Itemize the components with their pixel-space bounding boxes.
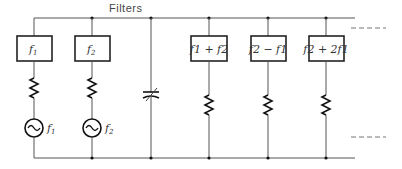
resistor-icon bbox=[88, 78, 96, 98]
resistor-icon bbox=[30, 78, 38, 98]
filter-label-f2-minus-f1: f2 − f1 bbox=[248, 43, 287, 56]
branch-f2: f2 f2 bbox=[75, 16, 114, 159]
circuit-diagram: Filters f1 f1 f2 f2 bbox=[0, 0, 402, 169]
branch-f2-plus-2f1: f2 + 2f1 bbox=[302, 16, 348, 159]
filter-label-f1-plus-f2: f1 + f2 bbox=[189, 43, 228, 56]
resistor-icon bbox=[205, 95, 213, 115]
bottom-bus bbox=[34, 140, 355, 158]
filters-title: Filters bbox=[109, 2, 142, 14]
branch-f2-minus-f1: f2 − f1 bbox=[248, 16, 287, 159]
variable-capacitor bbox=[143, 16, 159, 159]
resistor-icon bbox=[322, 95, 330, 115]
branch-f1-plus-f2: f1 + f2 bbox=[189, 16, 228, 159]
source-label-f1: f1 bbox=[46, 122, 56, 136]
source-label-f2: f2 bbox=[104, 122, 114, 136]
top-bus bbox=[34, 18, 355, 36]
branch-f1: f1 f1 bbox=[17, 36, 56, 140]
filter-label-f2-plus-2f1: f2 + 2f1 bbox=[302, 43, 348, 56]
resistor-icon bbox=[264, 95, 272, 115]
